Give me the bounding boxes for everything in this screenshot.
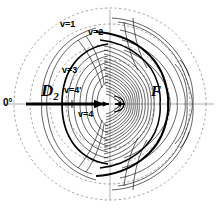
contour-band-u01 — [104, 46, 154, 104]
contour-band-l16 — [106, 104, 119, 114]
contour-band-u16 — [106, 94, 119, 104]
contour-side-lobe-l — [180, 104, 193, 148]
contour-band-l08 — [104, 104, 135, 138]
contour-ridge2-upper — [100, 40, 160, 104]
contour-band-u08 — [104, 70, 135, 104]
polar-contour-figure: 0° D2 F v=1 v=2 v=3 v=4' v=4 — [0, 0, 216, 208]
contour-band-l01 — [104, 104, 154, 162]
contour-plot-canvas — [0, 0, 216, 208]
contour-side-lobe-u — [180, 60, 193, 104]
contour-ridge2-lower — [100, 104, 160, 168]
